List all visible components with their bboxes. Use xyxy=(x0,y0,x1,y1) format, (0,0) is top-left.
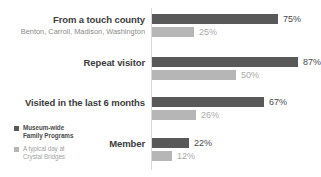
bar-group: Repeat visitor 87% 50% xyxy=(0,57,321,91)
legend-label-line2: Crystal Bridges xyxy=(23,153,65,160)
bar-row-secondary: 12% xyxy=(152,151,321,161)
chart-legend: Museum-wide Family Programs A typical da… xyxy=(14,124,124,166)
bar-value-primary: 87% xyxy=(303,57,321,67)
bar-primary xyxy=(152,57,298,67)
legend-swatch-icon xyxy=(14,147,19,152)
category-label-block: Visited in the last 6 months xyxy=(0,97,145,110)
bar-row-primary: 75% xyxy=(152,14,321,24)
bar-row-secondary: 25% xyxy=(152,27,321,37)
legend-label-line1: A typical day at xyxy=(23,145,65,152)
category-label: Visited in the last 6 months xyxy=(0,97,145,108)
bar-group: From a touch county Benton, Carroll, Mad… xyxy=(0,14,321,48)
bar-secondary xyxy=(152,27,194,37)
category-label: From a touch county xyxy=(0,14,145,25)
bar-value-secondary: 50% xyxy=(241,70,259,80)
bar-pair: 75% 25% xyxy=(152,14,321,48)
bar-row-primary: 22% xyxy=(152,138,321,148)
bar-row-secondary: 26% xyxy=(152,110,321,120)
bar-secondary xyxy=(152,70,236,80)
bar-chart: From a touch county Benton, Carroll, Mad… xyxy=(0,0,321,177)
bar-value-primary: 22% xyxy=(194,138,212,148)
category-label-block: From a touch county Benton, Carroll, Mad… xyxy=(0,14,145,37)
category-label-block: Repeat visitor xyxy=(0,57,145,70)
bar-value-secondary: 25% xyxy=(199,27,217,37)
category-label: Repeat visitor xyxy=(0,57,145,68)
legend-label: Museum-wide Family Programs xyxy=(23,124,73,140)
bar-pair: 87% 50% xyxy=(152,57,321,91)
bar-secondary xyxy=(152,151,172,161)
bar-primary xyxy=(152,138,189,148)
category-sublabel: Benton, Carroll, Madison, Washington xyxy=(0,27,145,37)
bar-primary xyxy=(152,14,278,24)
bar-primary xyxy=(152,97,264,107)
bar-row-secondary: 50% xyxy=(152,70,321,80)
bar-pair: 67% 26% xyxy=(152,97,321,131)
bar-row-primary: 87% xyxy=(152,57,321,67)
bar-value-secondary: 26% xyxy=(201,110,219,120)
bar-row-primary: 67% xyxy=(152,97,321,107)
legend-item-primary: Museum-wide Family Programs xyxy=(14,124,124,140)
bar-pair: 22% 12% xyxy=(152,138,321,172)
bar-value-primary: 67% xyxy=(269,97,287,107)
legend-label-line2: Family Programs xyxy=(23,132,73,139)
legend-label: A typical day at Crystal Bridges xyxy=(23,145,65,161)
legend-swatch-icon xyxy=(14,126,19,131)
bar-value-primary: 75% xyxy=(283,14,301,24)
legend-label-line1: Museum-wide xyxy=(23,124,64,131)
bar-secondary xyxy=(152,110,196,120)
legend-item-secondary: A typical day at Crystal Bridges xyxy=(14,145,124,161)
bar-value-secondary: 12% xyxy=(177,151,195,161)
